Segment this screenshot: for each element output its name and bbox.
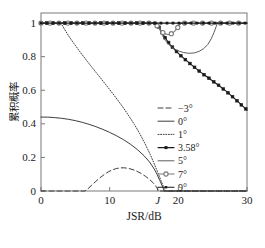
series-line	[41, 23, 247, 53]
y-tick-label: 0.2	[22, 151, 36, 163]
series-line	[41, 23, 247, 34]
series-line	[41, 168, 247, 191]
data-marker	[76, 22, 78, 24]
legend-label: 7°	[178, 169, 187, 180]
data-marker	[148, 22, 150, 24]
x-tick-label: 30	[242, 194, 254, 206]
data-marker	[178, 22, 180, 24]
legend-item-1[interactable]: 1°	[158, 129, 187, 140]
data-marker	[130, 22, 132, 24]
plot-frame	[41, 13, 247, 191]
x-axis-ticks	[41, 187, 247, 191]
data-marker	[40, 22, 42, 24]
legend: −3°0°1°3.58°5°7°9°	[158, 103, 200, 193]
data-marker	[207, 77, 210, 80]
data-marker	[169, 32, 173, 36]
series-line	[41, 23, 247, 110]
legend-label: 1°	[178, 129, 187, 140]
data-marker	[154, 22, 156, 24]
data-marker	[94, 22, 96, 24]
data-marker	[118, 22, 120, 24]
data-marker	[64, 22, 66, 24]
legend-item-3.58[interactable]: 3.58°	[158, 142, 200, 153]
series-1	[61, 23, 247, 191]
data-marker	[244, 107, 247, 110]
chart-figure: 010J2030 00.20.40.60.81 JSR/dB 累积概率 −3°0…	[0, 0, 265, 248]
x-tick-label: 20	[173, 194, 185, 206]
data-marker	[136, 22, 138, 24]
data-marker	[198, 70, 201, 73]
series-9	[40, 22, 247, 24]
data-marker	[160, 22, 162, 24]
data-marker	[88, 22, 90, 24]
series-0	[41, 117, 247, 191]
series-3	[41, 168, 247, 191]
data-marker	[227, 91, 230, 94]
data-marker	[189, 62, 192, 65]
data-marker	[70, 22, 72, 24]
cumulative-probability-plot: 010J2030 00.20.40.60.81 JSR/dB 累积概率 −3°0…	[0, 0, 265, 248]
data-marker	[184, 58, 187, 61]
data-marker	[190, 22, 192, 24]
data-marker	[193, 66, 196, 69]
data-marker	[112, 22, 114, 24]
y-axis-ticks	[41, 23, 45, 191]
legend-item-0[interactable]: 0°	[158, 116, 187, 127]
data-marker	[52, 22, 54, 24]
data-marker	[212, 80, 215, 83]
data-marker	[231, 95, 234, 98]
x-tick-label: J	[155, 194, 161, 206]
data-marker	[196, 22, 198, 24]
legend-label: −3°	[178, 103, 193, 114]
data-marker	[208, 22, 210, 24]
data-marker	[142, 22, 144, 24]
data-marker	[238, 22, 240, 24]
data-marker	[203, 73, 206, 76]
legend-marker	[165, 146, 168, 149]
y-tick-label: 0	[31, 185, 37, 197]
legend-label: 3.58°	[178, 142, 200, 153]
x-tick-label: 0	[38, 194, 44, 206]
series-3.58	[40, 22, 248, 111]
y-tick-label: 0.4	[22, 117, 36, 129]
data-marker	[244, 22, 246, 24]
data-marker	[240, 103, 243, 106]
data-curves	[39, 21, 247, 191]
data-marker	[106, 22, 108, 24]
data-marker	[58, 22, 60, 24]
legend-item-3[interactable]: −3°	[158, 103, 193, 114]
x-axis-tick-labels: 010J2030	[38, 194, 253, 206]
x-axis-title: JSR/dB	[126, 210, 161, 222]
series-line	[41, 117, 247, 191]
legend-label: 9°	[178, 182, 187, 193]
data-marker	[222, 88, 225, 91]
y-axis-tick-labels: 00.20.40.60.81	[22, 17, 36, 197]
data-marker	[172, 22, 174, 24]
series-line	[61, 23, 247, 191]
data-marker	[226, 22, 228, 24]
data-marker	[124, 22, 126, 24]
data-marker	[82, 22, 84, 24]
data-marker	[166, 22, 168, 24]
legend-label: 0°	[178, 116, 187, 127]
y-tick-label: 0.8	[22, 50, 36, 62]
y-tick-label: 1	[31, 17, 37, 29]
legend-marker	[165, 186, 167, 188]
data-marker	[202, 22, 204, 24]
data-marker	[220, 22, 222, 24]
data-marker	[161, 30, 165, 34]
data-marker	[46, 22, 48, 24]
data-marker	[184, 22, 186, 24]
x-tick-label: 10	[104, 194, 116, 206]
y-tick-label: 0.6	[22, 84, 36, 96]
data-marker	[232, 22, 234, 24]
legend-item-7[interactable]: 7°	[158, 169, 187, 180]
legend-item-5[interactable]: 5°	[158, 155, 187, 166]
data-marker	[214, 22, 216, 24]
series-5	[41, 23, 247, 53]
data-marker	[217, 84, 220, 87]
y-axis-title: 累积概率	[8, 82, 20, 122]
data-marker	[236, 99, 239, 102]
data-marker	[100, 22, 102, 24]
legend-marker	[164, 172, 168, 176]
